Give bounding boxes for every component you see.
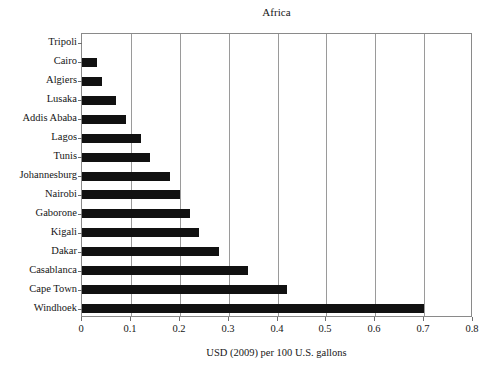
bar-row [82, 153, 471, 162]
y-tick-tripoli [78, 43, 82, 44]
y-axis-label-casablanca: Casablanca [0, 264, 77, 275]
chart-figure: Africa TripoliCairoAlgiersLusakaAddis Ab… [0, 0, 488, 373]
x-tick-mark-0.5 [325, 317, 326, 321]
bar-row [82, 96, 471, 105]
plot-area [81, 33, 472, 317]
bar-row [82, 266, 471, 275]
x-axis-label-0.5: 0.5 [305, 323, 345, 335]
bars-layer [82, 34, 471, 316]
y-tick-lusaka [78, 100, 82, 101]
bar-row [82, 134, 471, 143]
y-tick-johannesburg [78, 176, 82, 177]
x-axis-title: USD (2009) per 100 U.S. gallons [81, 347, 472, 359]
y-axis-label-johannesburg: Johannesburg [0, 169, 77, 180]
x-tick-mark-0.2 [179, 317, 180, 321]
y-tick-cape-town [78, 290, 82, 291]
bar-gaborone [82, 209, 190, 218]
y-axis-label-tunis: Tunis [0, 150, 77, 161]
x-tick-mark-0.3 [228, 317, 229, 321]
bar-row [82, 285, 471, 294]
y-axis-label-cairo: Cairo [0, 55, 77, 66]
bar-addis-ababa [82, 115, 126, 124]
x-axis-label-0.4: 0.4 [257, 323, 297, 335]
y-tick-windhoek [78, 309, 82, 310]
x-axis-label-0.3: 0.3 [208, 323, 248, 335]
y-axis-label-dakar: Dakar [0, 245, 77, 256]
y-axis-label-lusaka: Lusaka [0, 93, 77, 104]
bar-row [82, 58, 471, 67]
bar-row [82, 39, 471, 48]
y-tick-nairobi [78, 195, 82, 196]
bar-lusaka [82, 96, 116, 105]
y-axis-label-kigali: Kigali [0, 226, 77, 237]
x-tick-mark-0.6 [374, 317, 375, 321]
x-axis-label-0.2: 0.2 [159, 323, 199, 335]
bar-casablanca [82, 266, 248, 275]
bar-row [82, 209, 471, 218]
y-axis-label-windhoek: Windhoek [0, 302, 77, 313]
y-axis-label-cape-town: Cape Town [0, 283, 77, 294]
x-axis-label-0.8: 0.8 [452, 323, 488, 335]
y-tick-gaborone [78, 214, 82, 215]
x-tick-mark-0.7 [423, 317, 424, 321]
bar-dakar [82, 247, 219, 256]
y-tick-lagos [78, 138, 82, 139]
y-tick-cairo [78, 62, 82, 63]
x-tick-mark-0.8 [472, 317, 473, 321]
x-axis-label-0.6: 0.6 [354, 323, 394, 335]
bar-row [82, 304, 471, 313]
y-axis-label-tripoli: Tripoli [0, 36, 77, 47]
y-tick-tunis [78, 157, 82, 158]
bar-cape-town [82, 285, 287, 294]
y-axis-labels: TripoliCairoAlgiersLusakaAddis AbabaLago… [0, 33, 77, 317]
y-axis-label-lagos: Lagos [0, 131, 77, 142]
bar-windhoek [82, 304, 424, 313]
y-axis-label-gaborone: Gaborone [0, 207, 77, 218]
bar-tunis [82, 153, 150, 162]
y-tick-casablanca [78, 271, 82, 272]
y-tick-kigali [78, 233, 82, 234]
x-axis-label-0: 0 [61, 323, 101, 335]
x-axis-label-0.1: 0.1 [110, 323, 150, 335]
bar-nairobi [82, 190, 180, 199]
y-tick-dakar [78, 252, 82, 253]
bar-cairo [82, 58, 97, 67]
bar-row [82, 172, 471, 181]
bar-row [82, 247, 471, 256]
chart-title: Africa [81, 6, 472, 19]
bar-johannesburg [82, 172, 170, 181]
y-axis-label-algiers: Algiers [0, 74, 77, 85]
x-axis-label-0.7: 0.7 [403, 323, 443, 335]
x-tick-mark-0.1 [130, 317, 131, 321]
x-tick-mark-0.4 [277, 317, 278, 321]
x-axis-ticks-and-labels: 00.10.20.30.40.50.60.70.8 [81, 317, 472, 341]
bar-row [82, 77, 471, 86]
bar-row [82, 228, 471, 237]
bar-lagos [82, 134, 141, 143]
bar-row [82, 115, 471, 124]
y-axis-label-nairobi: Nairobi [0, 188, 77, 199]
y-tick-addis-ababa [78, 119, 82, 120]
bar-row [82, 190, 471, 199]
y-axis-label-addis-ababa: Addis Ababa [0, 112, 77, 123]
y-tick-algiers [78, 81, 82, 82]
x-tick-mark-0 [81, 317, 82, 321]
bar-algiers [82, 77, 102, 86]
bar-kigali [82, 228, 199, 237]
